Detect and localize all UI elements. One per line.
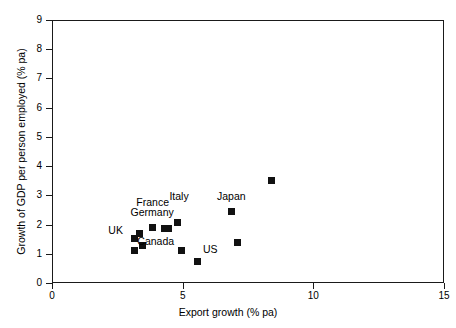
x-axis-tick [183,283,184,289]
y-axis-tick [46,166,52,167]
y-axis-tick [46,254,52,255]
y-axis-tick-label: 7 [28,73,42,83]
data-point-marker [268,177,275,184]
y-axis-tick [46,225,52,226]
x-axis-tick [444,283,445,289]
plot-area-frame [52,20,444,283]
y-axis-tick [46,195,52,196]
y-axis-tick [46,137,52,138]
y-axis-tick-label: 2 [28,220,42,230]
y-axis-title: Growth of GDP per person employed (% pa) [14,20,28,283]
data-point-marker [165,225,172,232]
data-point-label-france: France [136,197,169,208]
y-axis-tick [46,108,52,109]
y-axis-tick-label: 8 [28,44,42,54]
y-axis-tick-label: 6 [28,103,42,113]
x-axis-tick-label: 15 [424,291,456,301]
x-axis-tick-label: 0 [32,291,72,301]
data-point-label-us: US [203,244,218,255]
data-point-label-canada: Canada [137,236,174,247]
y-axis-tick-label: 0 [28,278,42,288]
data-point-marker [174,219,181,226]
data-point-marker [149,224,156,231]
data-point-label-germany: Germany [131,207,174,218]
data-point-label-japan: Japan [217,191,246,202]
data-point-label-italy: Italy [169,191,188,202]
y-axis-tick [46,20,52,21]
y-axis-tick [46,78,52,79]
y-axis-tick-label: 5 [28,132,42,142]
scatter-chart-figure: 0123456789 051015 UKGermanyFranceItalyCa… [0,0,456,328]
data-point-label-uk: UK [108,225,123,236]
data-point-marker [194,258,201,265]
y-axis-tick-label: 1 [28,249,42,259]
y-axis-tick [46,49,52,50]
y-axis-tick-label: 3 [28,190,42,200]
x-axis-title: Export growth (% pa) [0,307,456,318]
x-axis-tick [313,283,314,289]
y-axis-tick-label: 4 [28,161,42,171]
y-axis-tick-label: 9 [28,15,42,25]
data-point-marker [234,239,241,246]
data-point-marker [228,208,235,215]
x-axis-tick [52,283,53,289]
x-axis-tick-label: 5 [163,291,203,301]
data-point-marker [178,247,185,254]
data-point-marker [131,247,138,254]
x-axis-tick-label: 10 [293,291,333,301]
